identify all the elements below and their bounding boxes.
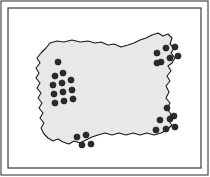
dot-marker <box>70 96 76 102</box>
dot-marker <box>153 127 159 133</box>
dot-marker <box>88 141 94 147</box>
dot-marker <box>83 132 89 138</box>
dot-marker <box>163 45 169 51</box>
dot-marker <box>157 117 163 123</box>
dot-marker <box>74 134 80 140</box>
dot-marker <box>172 124 178 130</box>
dot-marker <box>60 70 66 76</box>
dot-marker <box>175 53 181 59</box>
dot-marker <box>61 98 67 104</box>
dot-marker <box>163 126 169 132</box>
dot-marker <box>52 73 58 79</box>
dot-marker <box>167 55 173 61</box>
dot-marker <box>68 77 74 83</box>
dot-marker <box>69 87 75 93</box>
dot-marker <box>154 60 160 66</box>
dot-distribution-map <box>0 0 210 177</box>
dot-marker <box>154 50 160 56</box>
dot-marker <box>60 89 66 95</box>
dot-marker <box>50 82 56 88</box>
dot-marker <box>59 80 65 86</box>
dot-marker <box>164 105 170 111</box>
dot-marker <box>51 91 57 97</box>
dot-marker <box>55 59 61 65</box>
dot-marker <box>79 142 85 148</box>
dot-marker <box>52 100 58 106</box>
dot-marker <box>171 113 177 119</box>
dot-marker <box>172 44 178 50</box>
figure-container <box>0 0 210 177</box>
